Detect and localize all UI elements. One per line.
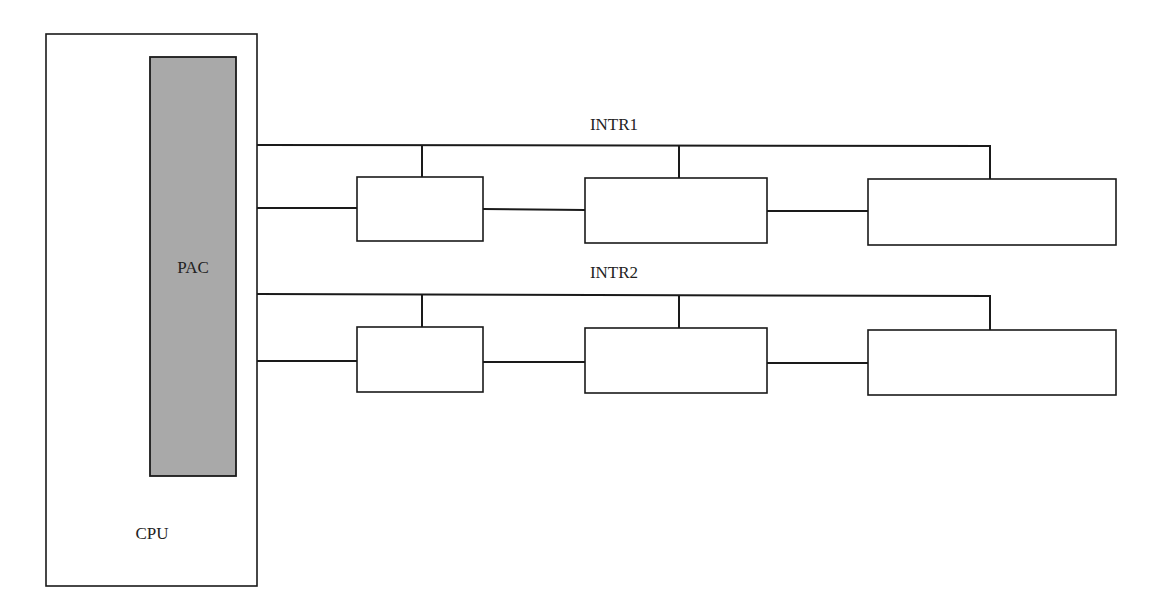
intr1-device-2 xyxy=(585,178,767,243)
intr2-bus-line xyxy=(257,294,990,330)
intr1-chain-device-1-to-2 xyxy=(483,209,585,210)
intr2-label: INTR2 xyxy=(590,263,638,282)
cpu-label: CPU xyxy=(135,524,168,543)
intr1-device-1 xyxy=(357,177,483,241)
intr1-bus-line xyxy=(257,145,990,179)
pac-label: PAC xyxy=(177,258,209,277)
intr2-device-1 xyxy=(357,327,483,392)
intr1-label: INTR1 xyxy=(590,115,638,134)
interrupt-daisy-chain-diagram: PAC CPU INTR1 INTR2 xyxy=(0,0,1160,611)
intr2-device-2 xyxy=(585,328,767,393)
intr2-device-3 xyxy=(868,330,1116,395)
intr1-device-3 xyxy=(868,179,1116,245)
